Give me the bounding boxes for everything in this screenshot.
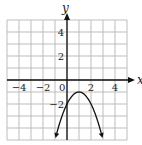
parabola-graph: xy −4−202442−2 (0, 0, 142, 145)
y-tick-label: 4 (58, 27, 64, 38)
x-tick-label: −2 (36, 82, 51, 93)
axes: xy (7, 1, 142, 140)
x-tick-label: 2 (88, 82, 94, 93)
y-tick-label: 2 (58, 51, 64, 62)
y-tick-label: −2 (49, 99, 64, 110)
x-tick-label: 0 (59, 82, 65, 93)
y-axis-label: y (61, 1, 69, 15)
x-axis-label: x (137, 73, 142, 87)
x-tick-label: −4 (12, 82, 27, 93)
x-tick-label: 4 (112, 82, 118, 93)
x-axis-arrow-icon (128, 77, 135, 83)
